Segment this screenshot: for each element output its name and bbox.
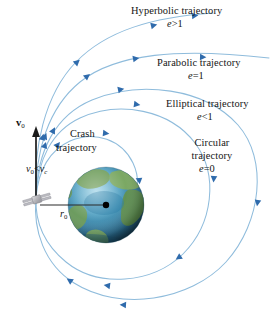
velocity-v0-arrowhead (32, 126, 40, 137)
label-parabolic-trajectory: Parabolic trajectory (157, 57, 241, 69)
label-hyperbolic-eccentricity: e>1 (167, 18, 183, 30)
label-speed-condition: v0<vc (26, 163, 47, 175)
label-circular-trajectory-line1: Circular (183, 137, 241, 149)
earth-center-dot (103, 202, 109, 208)
label-elliptical-trajectory: Elliptical trajectory (166, 98, 249, 110)
label-crash-trajectory-line1: Crash (70, 128, 95, 140)
label-circular-eccentricity: e=0 (199, 163, 215, 175)
hyperbolic-value: 1 (178, 18, 183, 29)
speed-vc-subscript: c (44, 168, 47, 175)
parabolic-value: 1 (199, 70, 204, 81)
label-velocity-vector-v0: v0 (16, 117, 25, 131)
label-elliptical-eccentricity: e<1 (197, 111, 213, 123)
label-parabolic-eccentricity: e=1 (188, 70, 204, 82)
label-radius-r0: r0 (60, 208, 67, 220)
label-circular-trajectory-line2: trajectory (176, 150, 248, 162)
orbital-trajectories-figure: Hyperbolic trajectory e>1 Parabolic traj… (0, 0, 272, 318)
circular-value: 0 (210, 163, 215, 174)
elliptical-value: 1 (208, 111, 213, 122)
radius-r-subscript: 0 (64, 213, 67, 220)
label-crash-trajectory-line2: trajectory (56, 142, 97, 154)
label-hyperbolic-trajectory: Hyperbolic trajectory (131, 5, 222, 17)
velocity-v-subscript: 0 (21, 122, 25, 130)
